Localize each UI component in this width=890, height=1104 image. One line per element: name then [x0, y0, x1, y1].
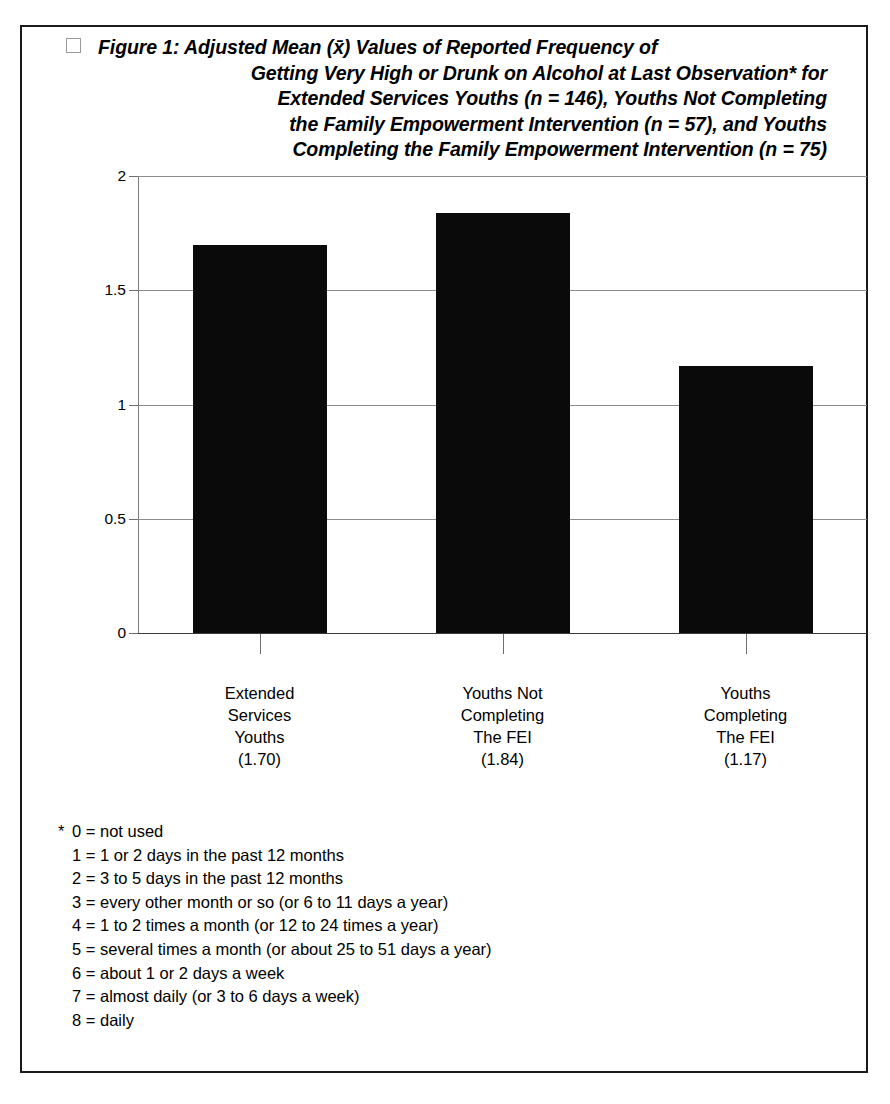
x-axis-tick-mark — [503, 634, 504, 654]
figure-title: Figure 1: Adjusted Mean (x̄) Values of R… — [62, 35, 827, 163]
footnote-item-text: 1 = 1 or 2 days in the past 12 months — [72, 846, 344, 864]
footnote-item: 1 = 1 or 2 days in the past 12 months — [58, 844, 678, 868]
x-axis-category-label: Youths NotCompletingThe FEI(1.84) — [381, 682, 624, 770]
empty-square-icon — [66, 38, 81, 53]
figure-title-line-4: the Family Empowerment Intervention (n =… — [62, 112, 827, 138]
category-label-line: Extended — [138, 682, 381, 704]
y-axis-tick-mark — [129, 405, 138, 406]
footnote-item: 5 = several times a month (or about 25 t… — [58, 938, 678, 962]
category-label-line: Completing — [624, 704, 867, 726]
bar — [679, 366, 813, 633]
category-label-line: (1.70) — [138, 748, 381, 770]
footnote-item: 3 = every other month or so (or 6 to 11 … — [58, 891, 678, 915]
footnote-marker: * — [58, 820, 72, 844]
category-label-line: Youths — [624, 682, 867, 704]
figure-title-line-1: Figure 1: Adjusted Mean (x̄) Values of R… — [62, 35, 827, 61]
footnote-item-text: 8 = daily — [72, 1011, 134, 1029]
bar — [436, 213, 570, 633]
figure-title-line-3: Extended Services Youths (n = 146), Yout… — [62, 86, 827, 112]
category-label-line: The FEI — [381, 726, 624, 748]
figure-title-text-1: Figure 1: Adjusted Mean (x̄) Values of R… — [98, 36, 657, 58]
y-axis-tick-label: 0.5 — [72, 511, 126, 527]
footnote-item: 7 = almost daily (or 3 to 6 days a week) — [58, 985, 678, 1009]
footnote-item-text: 2 = 3 to 5 days in the past 12 months — [72, 869, 343, 887]
footnote-item-text: 4 = 1 to 2 times a month (or 12 to 24 ti… — [72, 916, 438, 934]
y-axis-tick-labels: 00.511.52 — [66, 176, 126, 634]
footnote-item-text: 5 = several times a month (or about 25 t… — [72, 940, 492, 958]
gridline — [138, 176, 867, 177]
category-label-line: Services — [138, 704, 381, 726]
bar-chart-plot-area: 00.511.52 — [138, 176, 867, 633]
y-axis-tick-label: 1.5 — [72, 282, 126, 298]
footnote-item-text: 7 = almost daily (or 3 to 6 days a week) — [72, 987, 360, 1005]
y-axis-tick-mark — [129, 290, 138, 291]
y-axis-tick-mark — [129, 519, 138, 520]
y-axis-tick-label: 1 — [72, 397, 126, 413]
x-axis-category-label: ExtendedServicesYouths(1.70) — [138, 682, 381, 770]
x-axis-category-label: YouthsCompletingThe FEI(1.17) — [624, 682, 867, 770]
x-axis-category-labels: ExtendedServicesYouths(1.70)Youths NotCo… — [138, 682, 867, 792]
x-axis-tick-mark — [260, 634, 261, 654]
figure-title-line-5: Completing the Family Empowerment Interv… — [62, 137, 827, 163]
footnote-item: 4 = 1 to 2 times a month (or 12 to 24 ti… — [58, 914, 678, 938]
y-axis-tick-label: 0 — [72, 625, 126, 641]
category-label-line: Youths — [138, 726, 381, 748]
footnote-item: 2 = 3 to 5 days in the past 12 months — [58, 867, 678, 891]
figure-frame: Figure 1: Adjusted Mean (x̄) Values of R… — [20, 25, 868, 1073]
category-label-line: Completing — [381, 704, 624, 726]
category-label-line: Youths Not — [381, 682, 624, 704]
footnote-item: 6 = about 1 or 2 days a week — [58, 962, 678, 986]
category-label-line: (1.17) — [624, 748, 867, 770]
bar — [193, 245, 327, 633]
footnote-item-text: 6 = about 1 or 2 days a week — [72, 964, 284, 982]
y-axis-tick-mark — [129, 176, 138, 177]
footnote-item: 8 = daily — [58, 1009, 678, 1033]
footnote-item-text: 3 = every other month or so (or 6 to 11 … — [72, 893, 448, 911]
footnote-item: *0 = not used — [58, 820, 678, 844]
y-axis-tick-label: 2 — [72, 168, 126, 184]
x-axis-tick-mark — [746, 634, 747, 654]
footnote-item-text: 0 = not used — [72, 822, 163, 840]
y-axis-tick-mark — [129, 633, 138, 634]
category-label-line: (1.84) — [381, 748, 624, 770]
footnote-legend: *0 = not used1 = 1 or 2 days in the past… — [58, 820, 678, 1032]
figure-title-line-2: Getting Very High or Drunk on Alcohol at… — [62, 61, 827, 87]
category-label-line: The FEI — [624, 726, 867, 748]
